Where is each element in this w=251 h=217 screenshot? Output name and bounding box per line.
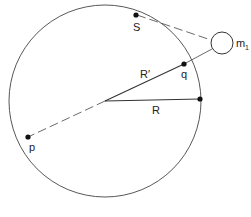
dashed-line-center-p [28, 101, 105, 137]
point-s [133, 12, 138, 17]
point-r-edge [197, 96, 202, 101]
label-s: S [133, 21, 140, 33]
body-m1 [211, 32, 233, 54]
radius-r-line [105, 99, 200, 101]
diagram-canvas: S m 1 q R′ R p [0, 0, 251, 217]
dashed-line-s-m1 [137, 15, 211, 40]
label-r: R [152, 104, 160, 116]
line-q-m1 [184, 49, 212, 64]
label-m: m [236, 37, 245, 49]
label-p: p [29, 141, 35, 153]
label-m-subscript: 1 [245, 44, 249, 51]
label-r-prime: R′ [140, 68, 150, 80]
label-q: q [181, 68, 187, 80]
point-q [181, 61, 186, 66]
point-p [25, 134, 30, 139]
